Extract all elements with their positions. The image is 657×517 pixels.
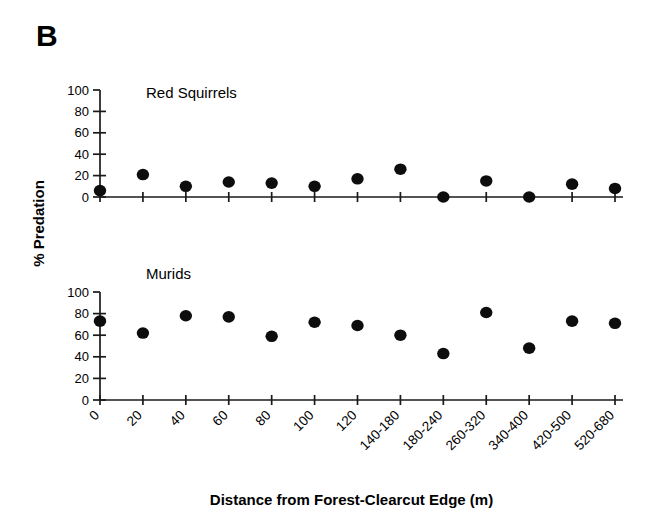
- data-point: [437, 348, 449, 360]
- data-point: [308, 316, 320, 328]
- plot-panel-murids: Murids 020406080100020406080100120140-18…: [62, 286, 622, 406]
- x-tick-label: 340-400: [486, 408, 532, 454]
- plot-area-murids: 020406080100020406080100120140-180180-24…: [62, 286, 622, 476]
- data-point: [265, 177, 277, 189]
- panel-letter: B: [36, 21, 58, 51]
- data-point: [180, 181, 192, 193]
- figure-panel-b: B % Predation Red Squirrels 020406080100…: [0, 0, 657, 517]
- x-tick-label: 260-320: [443, 408, 489, 454]
- plot-area-red-squirrels: 020406080100: [62, 84, 622, 202]
- y-tick-label: 20: [75, 168, 89, 183]
- data-point: [223, 176, 235, 188]
- x-axis-title: Distance from Forest-Clearcut Edge (m): [0, 491, 657, 508]
- data-point: [351, 320, 363, 332]
- data-point: [566, 178, 578, 190]
- data-point: [137, 169, 149, 181]
- x-tick-label: 100: [290, 408, 317, 435]
- data-point: [308, 181, 320, 193]
- x-tick-label: 180-240: [400, 408, 446, 454]
- x-tick-label: 420-500: [529, 408, 575, 454]
- y-axis-title: % Predation: [30, 139, 47, 309]
- x-tick-label: 140-180: [357, 408, 403, 454]
- data-point: [180, 310, 192, 322]
- x-tick-label: 40: [167, 408, 188, 429]
- data-point: [480, 175, 492, 187]
- y-tick-label: 20: [75, 371, 89, 386]
- data-point: [566, 315, 578, 327]
- data-point: [609, 183, 621, 195]
- y-tick-label: 0: [82, 190, 89, 205]
- x-tick-label: 120: [333, 408, 360, 435]
- data-point: [523, 342, 535, 354]
- y-tick-label: 100: [67, 83, 89, 98]
- x-tick-label: 0: [86, 408, 102, 424]
- data-point: [94, 315, 106, 327]
- y-tick-label: 80: [75, 306, 89, 321]
- y-tick-label: 0: [82, 393, 89, 408]
- data-point: [394, 329, 406, 341]
- data-point: [265, 330, 277, 342]
- data-point: [137, 327, 149, 339]
- y-tick-label: 40: [75, 349, 89, 364]
- x-tick-label: 60: [210, 408, 231, 429]
- data-point: [523, 191, 535, 203]
- data-point: [437, 191, 449, 203]
- x-tick-label: 520-680: [571, 408, 617, 454]
- series-label-murids: Murids: [146, 265, 191, 282]
- y-tick-label: 100: [67, 285, 89, 300]
- y-tick-label: 80: [75, 104, 89, 119]
- data-point: [223, 311, 235, 323]
- y-tick-label: 60: [75, 125, 89, 140]
- data-point: [609, 318, 621, 330]
- x-tick-label: 20: [124, 408, 145, 429]
- data-point: [351, 173, 363, 185]
- data-point: [94, 185, 106, 197]
- plot-panel-red-squirrels: Red Squirrels 020406080100: [62, 84, 622, 202]
- y-tick-label: 60: [75, 328, 89, 343]
- y-tick-label: 40: [75, 147, 89, 162]
- data-point: [480, 307, 492, 319]
- x-tick-label: 80: [253, 408, 274, 429]
- data-point: [394, 163, 406, 175]
